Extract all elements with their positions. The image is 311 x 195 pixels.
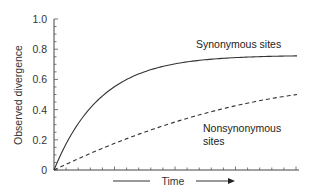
nonsynonymous-label-sites: sites	[203, 135, 225, 147]
y-tick-label: 0.2	[32, 134, 47, 146]
y-ticks	[54, 19, 58, 170]
synonymous-label: Synonymous sites	[196, 38, 281, 50]
y-tick-label: 1.0	[32, 13, 47, 25]
nonsynonymous-label: Nonsynonymous	[203, 122, 281, 134]
x-ticks	[66, 167, 296, 171]
divergence-chart: 0 0.2 0.4 0.6 0.8 1.0 Observed divergenc…	[0, 0, 311, 195]
y-tick-label: 0.6	[32, 73, 47, 85]
time-arrow-icon	[228, 178, 235, 184]
y-tick-label: 0.4	[32, 104, 47, 116]
synonymous-curve	[54, 56, 297, 170]
x-axis-title: Time	[162, 175, 185, 187]
y-axis-title: Observed divergence	[12, 45, 24, 145]
y-tick-label: 0.8	[32, 43, 47, 55]
y-tick-label: 0	[41, 164, 47, 176]
